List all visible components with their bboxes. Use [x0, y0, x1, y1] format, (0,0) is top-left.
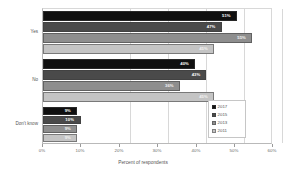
bar-dontknow-2017 — [43, 107, 77, 115]
bar-row: 55% — [43, 33, 271, 43]
bar-value-label: 9% — [65, 136, 71, 140]
xtick-mark — [196, 144, 197, 147]
category-label-yes: Yes — [0, 30, 38, 35]
bar-yes-2017 — [43, 11, 237, 21]
bar-value-label: 45% — [199, 95, 208, 99]
bar-value-label: 40% — [180, 62, 189, 66]
bar-value-label: 43% — [192, 73, 201, 77]
xtick-label: 60% — [268, 149, 277, 153]
xtick-label: 40% — [192, 149, 201, 153]
bar-yes-2011 — [43, 44, 214, 54]
x-axis-title: Percent of respondents — [0, 161, 286, 166]
gridline-50 — [282, 9, 283, 143]
legend-label: 2013 — [218, 121, 228, 125]
bar-group-no: 40% 43% 36% 45% — [43, 59, 271, 103]
bar-row: 47% — [43, 22, 271, 32]
xtick-label: 30% — [153, 149, 162, 153]
bar-value-label: 9% — [65, 127, 71, 131]
xtick-mark — [157, 144, 158, 147]
bar-yes-2015 — [43, 22, 222, 32]
legend-label: 2017 — [218, 105, 228, 109]
bar-yes-2013 — [43, 33, 252, 43]
bar-row: 40% — [43, 59, 271, 69]
legend-item-2011[interactable]: 2011 — [212, 127, 243, 135]
xtick-mark — [42, 144, 43, 147]
bar-chart: 51% 47% 55% 45% 40% 43% — [0, 0, 286, 179]
xtick-label: 20% — [115, 149, 124, 153]
bar-no-2011 — [43, 92, 214, 102]
bar-value-label: 55% — [237, 36, 246, 40]
category-label-no: No — [0, 78, 38, 83]
legend-item-2017[interactable]: 2017 — [212, 103, 243, 111]
bar-value-label: 10% — [65, 118, 74, 122]
category-label-dont-know: Don't know — [0, 122, 38, 127]
bar-row: 45% — [43, 44, 271, 54]
xtick-mark — [272, 144, 273, 147]
bar-no-2015 — [43, 70, 206, 80]
legend-label: 2015 — [218, 113, 228, 117]
legend-swatch-icon — [212, 121, 216, 125]
bar-value-label: 51% — [222, 14, 231, 18]
bar-row: 43% — [43, 70, 271, 80]
legend-label: 2011 — [218, 129, 227, 133]
bar-value-label: 45% — [199, 47, 208, 51]
legend-swatch-icon — [212, 129, 216, 133]
bar-dontknow-2015 — [43, 116, 81, 124]
bar-value-label: 36% — [165, 84, 174, 88]
xtick-mark — [234, 144, 235, 147]
legend-swatch-icon — [212, 113, 216, 117]
bar-group-yes: 51% 47% 55% 45% — [43, 11, 271, 55]
bar-row: 51% — [43, 11, 271, 21]
bar-value-label: 9% — [65, 109, 71, 113]
xtick-mark — [80, 144, 81, 147]
legend-swatch-icon — [212, 105, 216, 109]
xtick-mark — [119, 144, 120, 147]
bar-value-label: 47% — [207, 25, 216, 29]
chart-legend: 2017 2015 2013 2011 — [208, 100, 246, 138]
xtick-label: 50% — [230, 149, 239, 153]
bar-no-2017 — [43, 59, 195, 69]
bar-dontknow-2013 — [43, 125, 77, 133]
bar-row: 36% — [43, 81, 271, 91]
bar-no-2013 — [43, 81, 180, 91]
legend-item-2015[interactable]: 2015 — [212, 111, 243, 119]
xtick-label: 10% — [76, 149, 85, 153]
bar-dontknow-2011 — [43, 134, 77, 142]
xtick-label: 0% — [39, 149, 45, 153]
legend-item-2013[interactable]: 2013 — [212, 119, 243, 127]
